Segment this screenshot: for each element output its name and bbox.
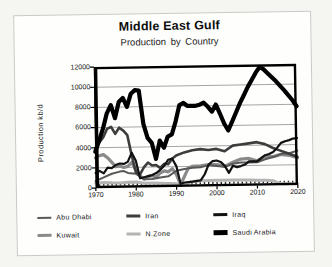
y-tick-4000: 4000 [58,144,91,152]
legend-label: Iraq [232,211,245,218]
x-tick-2000: 2000 [201,189,233,197]
kuwait-line-swatch [38,234,52,237]
legend-item-saudi-arabia: Saudi Arabia [213,227,275,237]
legend-label: Abu Dhabi [56,213,91,221]
iran-line-swatch [126,215,140,218]
y-axis-title: Production kb/d [35,78,47,188]
legend-item-iran: Iran [126,211,158,221]
y-tick-2000: 2000 [58,164,91,172]
x-tick-2010: 2010 [241,188,273,196]
y-tick-6000: 6000 [58,123,91,131]
legend-item-kuwait: Kuwait [38,230,80,240]
legend-label: N.Zone [146,230,171,237]
chart-title: Middle East Gulf [54,17,284,35]
x-tick-1980: 1980 [120,190,152,198]
legend-item-abu-dhabi: Abu Dhabi [37,212,92,222]
x-tick-1990: 1990 [160,190,192,198]
chart-subtitle: Production by Country [54,34,284,49]
legend-label: Kuwait [57,231,80,238]
nzone-line-swatch [127,232,141,235]
y-tick-10000: 10000 [57,83,90,91]
scanned-chart-page: Middle East Gulf Production by Country P… [13,11,315,257]
legend-item-iraq: Iraq [213,210,245,220]
plot-area [94,64,298,188]
legend-label: Saudi Arabia [233,228,276,236]
iraq-line-swatch [213,213,227,215]
y-tick-12000: 12000 [57,63,90,71]
x-tick-1970: 1970 [80,191,112,199]
line-chart [94,64,298,188]
saudi-arabia-line-swatch [214,230,228,234]
legend-label: Iran [145,212,158,219]
abu-dhabi-line-swatch [37,216,51,218]
legend-item-nzone: N.Zone [127,229,171,239]
x-tick-2020: 2020 [282,188,314,196]
y-tick-8000: 8000 [58,103,91,111]
